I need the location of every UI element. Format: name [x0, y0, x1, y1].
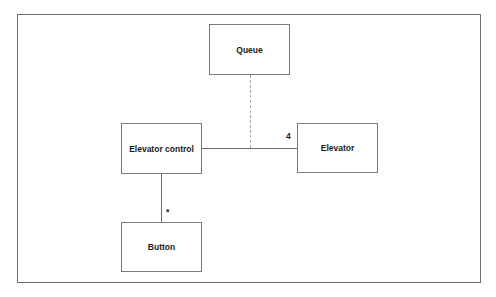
association-line-control-elevator [202, 148, 297, 149]
multiplicity-button: * [166, 207, 169, 217]
class-box-queue[interactable]: Queue [209, 24, 290, 75]
class-box-elevator[interactable]: Elevator [297, 123, 378, 173]
class-box-elevator-control[interactable]: Elevator control [121, 123, 202, 174]
association-line-control-button [161, 174, 162, 222]
class-label-button: Button [148, 242, 175, 252]
association-class-link-queue [250, 75, 251, 148]
class-label-elevator-control: Elevator control [129, 144, 194, 154]
class-box-button[interactable]: Button [121, 222, 202, 272]
class-label-queue: Queue [236, 45, 262, 55]
multiplicity-elevator: 4 [286, 131, 291, 141]
class-label-elevator: Elevator [321, 143, 355, 153]
